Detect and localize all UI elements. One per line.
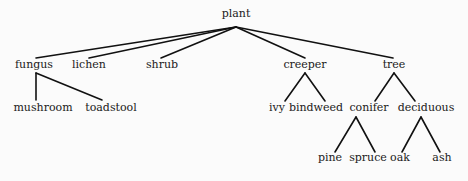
node-toadstool: toadstool — [85, 101, 137, 114]
node-deciduous: deciduous — [398, 101, 455, 114]
edge-plant-fungus — [36, 27, 236, 58]
edge-deciduous-oak — [402, 117, 421, 152]
edge-plant-shrub — [161, 27, 236, 58]
node-tree: tree — [383, 58, 406, 71]
node-shrub: shrub — [146, 58, 178, 71]
edge-conifer-pine — [335, 117, 356, 152]
node-pine: pine — [318, 151, 342, 164]
node-conifer: conifer — [349, 101, 389, 114]
node-creeper: creeper — [283, 58, 327, 71]
taxonomy-tree-diagram: plantfunguslichenshrubcreepertreemushroo… — [0, 0, 468, 181]
node-lichen: lichen — [72, 58, 106, 71]
edge-fungus-toadstool — [36, 73, 102, 100]
edge-plant-creeper — [236, 27, 305, 58]
node-plant: plant — [222, 7, 251, 20]
edge-creeper-bindweed — [305, 73, 325, 101]
node-mushroom: mushroom — [13, 101, 73, 114]
node-ivy: ivy — [269, 101, 286, 114]
edge-tree-conifer — [375, 73, 394, 101]
edge-tree-deciduous — [394, 73, 415, 101]
edge-plant-lichen — [89, 27, 236, 58]
node-ash: ash — [432, 151, 451, 164]
node-bindweed: bindweed — [289, 101, 343, 114]
node-fungus: fungus — [15, 58, 53, 71]
node-spruce: spruce — [349, 151, 387, 164]
tree-edges — [36, 27, 440, 152]
edge-creeper-ivy — [285, 73, 305, 101]
edge-plant-tree — [236, 27, 393, 58]
node-oak: oak — [390, 151, 410, 164]
edge-deciduous-ash — [421, 117, 440, 152]
edge-conifer-spruce — [356, 117, 375, 152]
tree-labels: plantfunguslichenshrubcreepertreemushroo… — [13, 7, 454, 164]
